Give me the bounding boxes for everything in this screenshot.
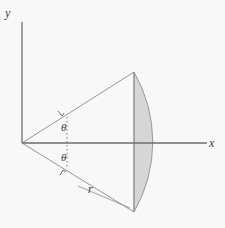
upper-angle-arrow-icon (58, 111, 64, 116)
y-axis-label: y (5, 7, 10, 19)
upper-radius-line (22, 72, 134, 143)
radius-label: r (88, 183, 93, 195)
sector-diagram-svg (0, 0, 225, 228)
radius-leader-line (78, 186, 130, 208)
shaded-circular-segment (134, 72, 153, 212)
x-axis-label: x (209, 137, 214, 149)
theta-lower-label: θ (61, 152, 66, 163)
figure-container: y x θ θ r (0, 0, 225, 228)
lower-angle-arrow-icon (60, 170, 66, 175)
theta-upper-label: θ (61, 122, 66, 133)
lower-radius-line (22, 143, 134, 212)
